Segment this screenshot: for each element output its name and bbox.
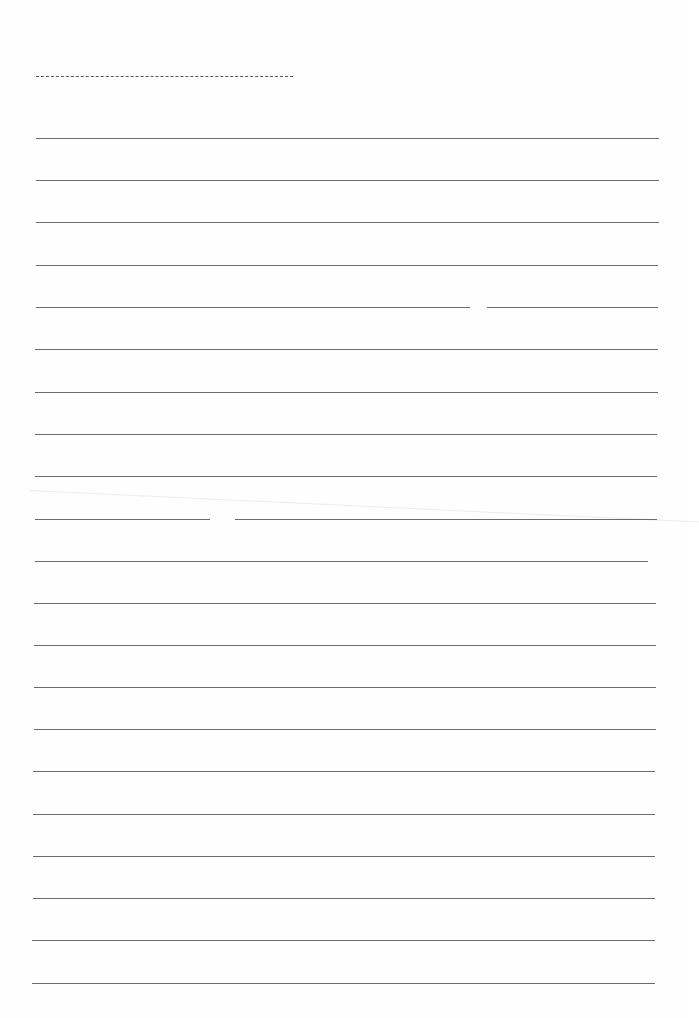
title-dashed-rule [36, 76, 293, 77]
ruled-line [35, 561, 648, 562]
ruled-line [35, 476, 657, 477]
title-field [36, 58, 293, 74]
ruled-line [33, 814, 655, 815]
ruled-line [33, 898, 655, 899]
ruled-line [32, 940, 655, 941]
ruled-line [34, 729, 656, 730]
paper-crease [30, 490, 699, 523]
ruled-line [36, 265, 658, 266]
ruled-line [35, 519, 657, 520]
line-gap [470, 306, 487, 309]
ruled-line [32, 983, 655, 984]
ruled-line [36, 222, 659, 223]
ruled-line [36, 138, 659, 139]
ruled-line [33, 856, 655, 857]
ruled-line [34, 687, 656, 688]
ruled-line [35, 349, 658, 350]
line-gap [210, 518, 235, 521]
ruled-line [35, 434, 657, 435]
ruled-line [33, 771, 655, 772]
ruled-line [36, 180, 659, 181]
ruled-line [36, 307, 658, 308]
ruled-line [34, 645, 656, 646]
ruled-line [34, 603, 656, 604]
ruled-line [35, 392, 658, 393]
